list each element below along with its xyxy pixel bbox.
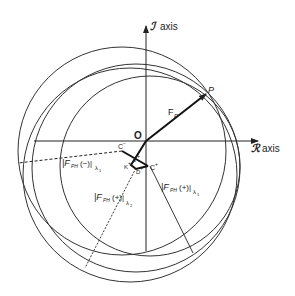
svg-text:(−)|: (−)| — [80, 159, 92, 168]
imag-axis-label: axis — [160, 21, 178, 32]
svg-text:PH: PH — [71, 163, 78, 169]
harker-construction-diagram: ℐ axis ℛ axis O P C − J + K + D + C + F … — [0, 0, 295, 296]
j-plus-label: J — [133, 157, 136, 163]
c-minus-sup: − — [123, 140, 126, 146]
real-axis-symbol: ℛ — [251, 142, 261, 154]
svg-text:1: 1 — [99, 168, 102, 173]
j-plus-sup: + — [137, 153, 140, 159]
c-plus-sup: + — [155, 161, 158, 167]
svg-text:PH: PH — [103, 197, 110, 203]
svg-text:|F: |F — [161, 182, 169, 192]
radius-c-plus — [150, 166, 193, 253]
label-fph-plus-lambda2: |F PH (+)| λ 2 — [94, 192, 133, 208]
k-plus-sup: + — [128, 160, 131, 166]
svg-text:λ: λ — [126, 200, 129, 206]
svg-text:PH: PH — [170, 187, 177, 193]
svg-text:(+)|: (+)| — [112, 193, 124, 202]
point-p-label: P — [208, 85, 214, 95]
d-plus-sup: + — [140, 165, 143, 171]
imag-axis-symbol: ℐ — [150, 20, 158, 32]
svg-text:(+)|: (+)| — [179, 183, 191, 192]
label-fph-minus-lambda1: |F PH (−)| λ 1 — [62, 158, 102, 173]
svg-text:|F: |F — [94, 192, 102, 202]
origin-label: O — [134, 130, 142, 141]
circle-outer — [23, 68, 237, 282]
svg-text:λ: λ — [193, 189, 196, 195]
svg-text:|F: |F — [62, 158, 70, 168]
svg-text:2: 2 — [130, 203, 133, 208]
label-fph-plus-lambda1: |F PH (+)| λ 1 — [161, 182, 200, 197]
svg-text:λ: λ — [95, 165, 98, 171]
svg-text:1: 1 — [197, 192, 200, 197]
fp-sub: P — [174, 113, 178, 119]
real-axis-label: axis — [262, 143, 280, 154]
